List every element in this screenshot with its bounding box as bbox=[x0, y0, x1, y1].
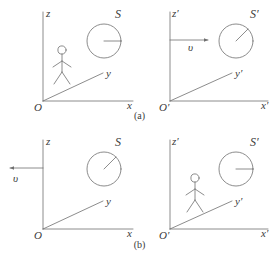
panel-top-left: z y x O S bbox=[0, 0, 139, 110]
observer-arm-right bbox=[195, 189, 204, 195]
relativity-frames-figure: z y x O S bbox=[0, 0, 279, 259]
caption-a: (a) bbox=[0, 110, 279, 121]
frame-label-s-prime: S′ bbox=[250, 136, 259, 148]
axis-label-x: x bbox=[127, 228, 132, 239]
observer-arm-left bbox=[53, 61, 62, 67]
caption-b: (b) bbox=[0, 239, 279, 250]
clock-hand bbox=[236, 29, 248, 41]
panel-bottom-right: z′ y′ x′ O′ S′ bbox=[140, 128, 279, 238]
axis-label-y-prime: y′ bbox=[235, 196, 242, 207]
observer-arm-right bbox=[62, 61, 71, 67]
axis-label-y: y bbox=[106, 196, 111, 207]
clock-hand bbox=[104, 157, 116, 169]
observer-leg-right bbox=[195, 200, 203, 212]
axis-label-y: y bbox=[106, 68, 111, 79]
observer-head bbox=[58, 46, 66, 54]
axis-y-prime-line bbox=[170, 73, 232, 101]
axis-label-z-prime: z′ bbox=[172, 136, 179, 147]
axis-label-y-prime: y′ bbox=[235, 68, 242, 79]
velocity-label: υ bbox=[13, 173, 18, 184]
axis-label-z: z bbox=[46, 136, 50, 147]
velocity-label: υ bbox=[188, 42, 193, 53]
axis-y-prime-line bbox=[170, 201, 232, 229]
observer-arm-left bbox=[186, 189, 195, 195]
axis-label-x-prime: x′ bbox=[261, 228, 268, 239]
axis-y-line bbox=[43, 201, 103, 229]
observer-leg-left bbox=[187, 200, 195, 212]
observer-leg-left bbox=[54, 72, 62, 84]
axis-label-z: z bbox=[46, 8, 50, 19]
axis-label-z-prime: z′ bbox=[172, 8, 179, 19]
frame-label-s-prime: S′ bbox=[250, 8, 259, 20]
frame-label-s: S bbox=[115, 136, 121, 148]
observer-leg-right bbox=[62, 72, 70, 84]
frame-label-s: S bbox=[115, 8, 121, 20]
panel-bottom-left: z y x O S υ bbox=[0, 128, 139, 238]
observer-head bbox=[191, 174, 199, 182]
axis-y-line bbox=[43, 73, 103, 101]
panel-top-right: z′ y′ x′ O′ S′ υ bbox=[140, 0, 279, 110]
